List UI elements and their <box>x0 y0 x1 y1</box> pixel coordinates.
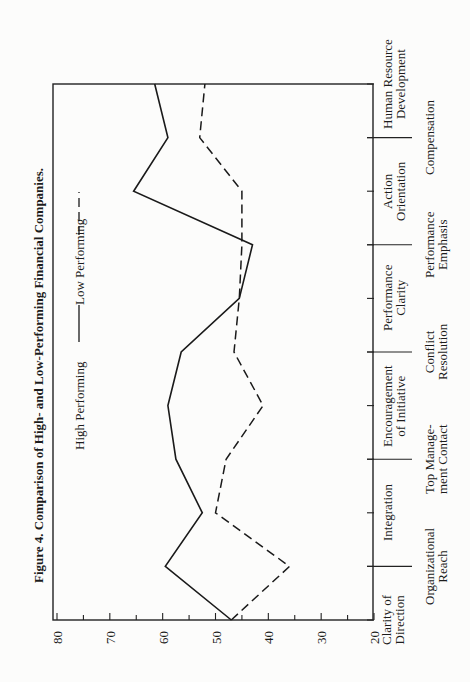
category-label-line: of Initiative <box>394 365 407 447</box>
value-tick-label: 50 <box>209 631 225 644</box>
legend-high-label: High Performing <box>72 362 88 450</box>
category-label-line: Integration <box>381 484 394 541</box>
category-label-line: Reach <box>436 528 449 605</box>
category-label: Clarity ofDirection <box>380 595 406 645</box>
category-label: Integration <box>381 484 394 541</box>
value-tick-label: 70 <box>103 631 119 644</box>
value-tick-label: 60 <box>156 631 172 644</box>
category-label: Encouragementof Initiative <box>381 365 407 447</box>
category-label-line: Resolution <box>436 324 449 380</box>
category-label-line: ment Contact <box>436 425 449 495</box>
value-tick-label: 30 <box>314 631 330 644</box>
category-label: PerformanceClarity <box>381 265 407 331</box>
category-label: Human ResourceDevelopment <box>381 39 407 129</box>
category-label: Compensation <box>423 100 436 175</box>
low-performing-line <box>200 84 290 620</box>
value-axis-ticks <box>57 613 374 620</box>
category-label: PerformanceEmphasis <box>423 211 449 277</box>
category-label-line: Direction <box>393 595 406 645</box>
category-label-line: Emphasis <box>436 211 449 277</box>
chart-title: Figure 4. Comparison of High- and Low-Pe… <box>31 168 47 583</box>
legend-low-label: Low Performing <box>72 219 88 305</box>
value-tick-label: 40 <box>261 631 277 644</box>
category-label: ConflictResolution <box>423 324 449 380</box>
value-tick-label: 80 <box>50 631 66 644</box>
category-label-line: Compensation <box>423 100 436 175</box>
category-label: OrganizationalReach <box>423 528 449 605</box>
category-label-line: Development <box>394 39 407 129</box>
plot-frame <box>53 84 373 620</box>
category-label: Top Manage-ment Contact <box>423 425 449 495</box>
category-label-line: Orientation <box>394 161 407 220</box>
category-label-line: Clarity <box>394 265 407 331</box>
category-label: ActionOrientation <box>381 161 407 220</box>
